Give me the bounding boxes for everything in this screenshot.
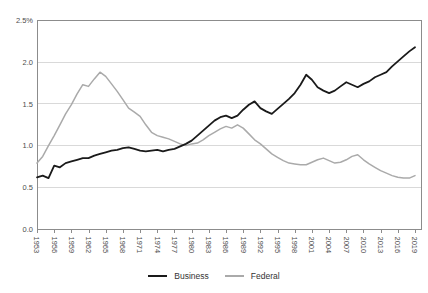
y-tick-label: 0.5 bbox=[23, 183, 33, 192]
x-tick-label: 2001 bbox=[307, 237, 316, 254]
x-tick-label: 1962 bbox=[84, 237, 93, 254]
x-tick-label: 2007 bbox=[342, 237, 351, 254]
federal-line-swatch bbox=[225, 275, 244, 277]
x-tick-label: 1959 bbox=[67, 237, 76, 254]
chart-legend: Business Federal bbox=[0, 268, 428, 284]
x-tick-label: 1956 bbox=[50, 237, 59, 254]
chart-canvas: 2.5%2.01.51.00.50.0195319561959196219651… bbox=[0, 0, 428, 268]
x-tick-label: 1971 bbox=[135, 237, 144, 254]
plot-frame bbox=[37, 21, 421, 230]
x-axis-ticks bbox=[38, 229, 416, 233]
y-tick-label: 1.5 bbox=[23, 100, 33, 109]
x-tick-label: 1980 bbox=[187, 237, 196, 254]
rd-intensity-line-chart: 2.5%2.01.51.00.50.0195319561959196219651… bbox=[0, 0, 428, 293]
x-tick-label: 2013 bbox=[376, 237, 385, 254]
y-tick-label: 2.5% bbox=[16, 16, 33, 25]
y-tick-label: 1.0 bbox=[23, 141, 33, 150]
x-tick-label: 1992 bbox=[256, 237, 265, 254]
x-tick-label: 1986 bbox=[221, 237, 230, 254]
x-tick-label: 1998 bbox=[290, 237, 299, 254]
federal-line bbox=[37, 72, 415, 178]
federal-legend-label: Federal bbox=[251, 272, 280, 281]
x-tick-label: 1953 bbox=[32, 237, 41, 254]
x-tick-label: 1968 bbox=[118, 237, 127, 254]
y-tick-label: 0.0 bbox=[23, 225, 33, 234]
business-line-swatch bbox=[148, 275, 167, 277]
x-tick-label: 2019 bbox=[410, 237, 419, 254]
legend-item-federal: Federal bbox=[225, 272, 280, 281]
x-tick-label: 2004 bbox=[324, 237, 333, 254]
y-tick-label: 2.0 bbox=[23, 58, 33, 67]
business-legend-label: Business bbox=[174, 272, 209, 281]
x-tick-label: 1974 bbox=[153, 237, 162, 254]
x-tick-label: 2016 bbox=[393, 237, 402, 254]
x-tick-label: 2010 bbox=[359, 237, 368, 254]
legend-item-business: Business bbox=[148, 272, 209, 281]
x-tick-label: 1965 bbox=[101, 237, 110, 254]
business-line bbox=[37, 47, 415, 178]
x-tick-label: 1977 bbox=[170, 237, 179, 254]
x-tick-label: 1989 bbox=[239, 237, 248, 254]
x-axis-labels: 1953195619591962196519681971197419771980… bbox=[32, 237, 419, 254]
gridlines bbox=[37, 62, 421, 187]
y-axis-labels: 2.5%2.01.51.00.50.0 bbox=[16, 16, 33, 234]
x-tick-label: 1995 bbox=[273, 237, 282, 254]
x-tick-label: 1983 bbox=[204, 237, 213, 254]
